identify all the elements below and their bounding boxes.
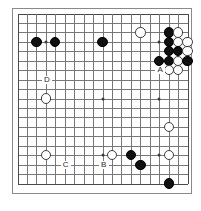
- black-stone[interactable]: [97, 37, 107, 47]
- white-stone[interactable]: [173, 65, 183, 75]
- black-stone[interactable]: [182, 56, 192, 66]
- black-stone[interactable]: [50, 37, 60, 47]
- white-stone[interactable]: [135, 27, 145, 37]
- star-point: [101, 97, 104, 100]
- board-label-a: A: [155, 66, 165, 74]
- black-stone[interactable]: [135, 160, 145, 170]
- white-stone[interactable]: [164, 122, 174, 132]
- grid-line-horizontal: [18, 184, 188, 185]
- grid-line-vertical: [93, 14, 94, 184]
- black-stone[interactable]: [31, 37, 41, 47]
- black-stone[interactable]: [126, 150, 136, 160]
- white-stone[interactable]: [41, 150, 51, 160]
- board-label-c: C: [61, 161, 71, 169]
- grid-line-vertical: [140, 14, 141, 184]
- grid-line-vertical: [74, 14, 75, 184]
- black-stone[interactable]: [164, 178, 174, 188]
- star-point: [101, 154, 104, 157]
- star-point: [158, 97, 161, 100]
- grid-line-vertical: [18, 14, 19, 184]
- grid-line-vertical: [84, 14, 85, 184]
- grid-line-vertical: [65, 14, 66, 184]
- star-point: [158, 154, 161, 157]
- white-stone[interactable]: [182, 46, 192, 56]
- grid-line-vertical: [121, 14, 122, 184]
- white-stone[interactable]: [41, 93, 51, 103]
- screenshot-root: ABCD: [0, 0, 201, 211]
- white-stone[interactable]: [107, 150, 117, 160]
- go-board-grid[interactable]: ABCD: [0, 0, 201, 211]
- grid-line-vertical: [150, 14, 151, 184]
- star-point: [44, 40, 47, 43]
- board-label-b: B: [99, 161, 109, 169]
- white-stone[interactable]: [164, 150, 174, 160]
- board-label-d: D: [42, 76, 52, 84]
- star-point: [158, 40, 161, 43]
- grid-line-vertical: [27, 14, 28, 184]
